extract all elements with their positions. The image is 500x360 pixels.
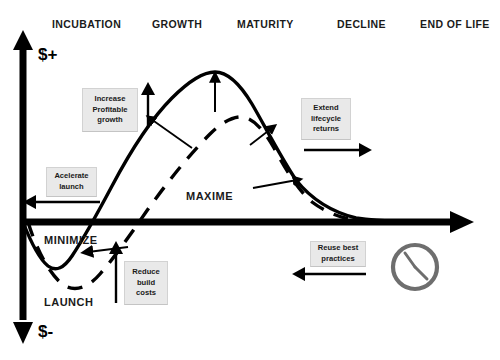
gap-arrow-minimize	[88, 247, 128, 252]
callout-line: Increase	[95, 94, 126, 105]
callout-line: Extend	[313, 103, 338, 114]
y-axis	[13, 30, 33, 222]
callout-line: Reduce	[132, 267, 159, 278]
callout-line: growth	[97, 115, 122, 126]
phase-label-growth: GROWTH	[152, 18, 202, 30]
gap-arrow-growth	[151, 119, 192, 148]
callout-line: launch	[59, 182, 83, 193]
phase-label-decline: DECLINE	[337, 18, 386, 30]
phase-label-incubation: INCUBATION	[52, 18, 121, 30]
stage-label-minimize: MINIMIZE	[44, 234, 98, 246]
callout-reduce-build-costs[interactable]: Reduce build costs	[124, 261, 168, 305]
callout-line: returns	[313, 124, 339, 135]
callout-line: Reuse best	[318, 243, 359, 254]
callout-acelerate-launch[interactable]: Acelerate launch	[46, 167, 97, 197]
callout-line: build	[137, 278, 155, 289]
callout-line: lifecycle	[311, 114, 341, 125]
callout-line: costs	[136, 288, 156, 299]
callout-line: Acelerate	[54, 171, 88, 182]
callout-extend-lifecycle-returns[interactable]: Extend lifecycle returns	[301, 98, 351, 140]
callout-line: practices	[321, 254, 354, 265]
gap-arrow-decline	[253, 180, 297, 188]
phase-label-maturity: MATURITY	[237, 18, 294, 30]
callout-line: Profitable	[92, 105, 127, 116]
stage-label-maxime: MAXIME	[186, 190, 233, 202]
stage-label-launch: LAUNCH	[44, 296, 93, 308]
y-axis-positive-label: $+	[38, 45, 57, 65]
phase-label-end-of-life: END OF LIFE	[420, 18, 490, 30]
callout-increase-profitable-growth[interactable]: Increase Profitable growth	[82, 88, 138, 132]
y-axis-negative-label: $-	[38, 322, 53, 342]
clock-icon	[393, 245, 437, 289]
callout-reuse-best-practices[interactable]: Reuse best practices	[310, 241, 366, 267]
